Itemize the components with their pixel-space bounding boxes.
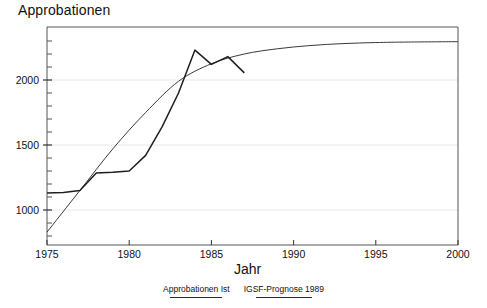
x-tick-label: 1995 [364, 248, 388, 260]
x-axis-title: Jahr [234, 261, 261, 277]
x-tick-label: 2000 [446, 248, 470, 260]
legend-item-ist: Approbationen Ist [163, 284, 230, 298]
chart-figure: Approbationen [0, 0, 487, 308]
y-tick-label: 2000 [16, 74, 40, 86]
x-tick-label: 1985 [200, 248, 224, 260]
plot-frame [47, 27, 458, 245]
legend-label-ist: Approbationen Ist [163, 284, 230, 294]
y-axis-minor-ticks [47, 41, 52, 236]
y-tick-label: 1500 [16, 139, 40, 151]
legend-label-prognose: IGSF-Prognose 1989 [244, 284, 324, 294]
chart-legend: Approbationen Ist IGSF-Prognose 1989 [0, 284, 487, 298]
series-line-ist [47, 50, 244, 193]
series-line-prognose [47, 42, 458, 232]
gridlines [47, 80, 458, 210]
legend-swatch-ist [170, 297, 222, 298]
x-axis-tick-labels: 1975 1980 1985 1990 1995 2000 [35, 248, 470, 260]
legend-swatch-prognose [256, 297, 312, 298]
x-axis-title-wrap: Jahr [0, 261, 487, 277]
x-tick-label: 1975 [35, 248, 59, 260]
x-tick-label: 1980 [118, 248, 142, 260]
x-tick-label: 1990 [282, 248, 306, 260]
legend-item-prognose: IGSF-Prognose 1989 [244, 284, 324, 298]
y-axis-tick-labels: 2000 1500 1000 [16, 74, 40, 216]
y-tick-label: 1000 [16, 204, 40, 216]
x-axis-ticks [47, 240, 458, 245]
